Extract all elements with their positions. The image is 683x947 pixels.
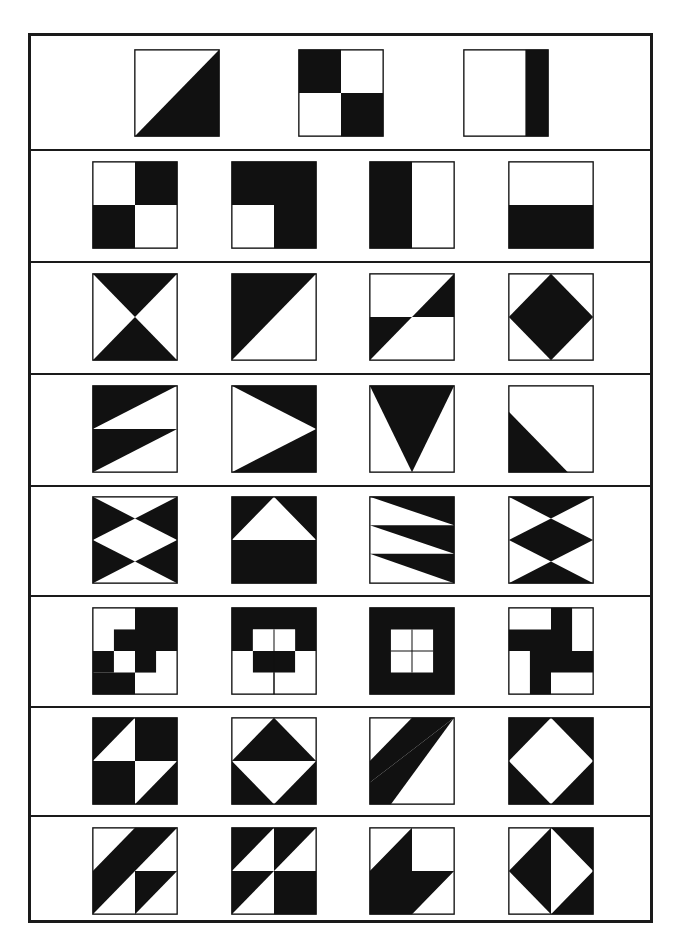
pattern-tile	[231, 607, 317, 695]
pattern-tile	[369, 827, 455, 915]
pattern-tile	[231, 273, 317, 361]
pattern-tile	[134, 49, 220, 137]
pattern-tile	[369, 161, 455, 249]
pattern-tile	[369, 273, 455, 361]
tile-frame	[28, 33, 653, 923]
tile-row	[31, 373, 650, 487]
tile-row	[31, 149, 650, 263]
tile-row	[31, 595, 650, 708]
pattern-tile	[369, 385, 455, 473]
pattern-tile	[231, 496, 317, 584]
pattern-tile	[463, 49, 549, 137]
pattern-tile	[231, 827, 317, 915]
pattern-tile	[508, 496, 594, 584]
pattern-tile	[231, 161, 317, 249]
pattern-tile	[92, 827, 178, 915]
pattern-tile	[508, 385, 594, 473]
pattern-tile	[508, 607, 594, 695]
pattern-tile	[508, 717, 594, 805]
pattern-tile	[231, 385, 317, 473]
pattern-tile	[369, 607, 455, 695]
pattern-tile	[92, 607, 178, 695]
pattern-tile	[92, 717, 178, 805]
pattern-tile	[508, 827, 594, 915]
pattern-tile	[369, 496, 455, 584]
tile-row	[31, 36, 650, 151]
pattern-tile	[298, 49, 384, 137]
tile-row	[31, 815, 650, 926]
pattern-tile	[369, 717, 455, 805]
pattern-tile	[92, 161, 178, 249]
pattern-tile	[508, 161, 594, 249]
pattern-tile	[92, 385, 178, 473]
pattern-tile	[92, 496, 178, 584]
tile-row	[31, 706, 650, 817]
pattern-tile	[508, 273, 594, 361]
tile-row	[31, 485, 650, 597]
pattern-tile	[92, 273, 178, 361]
pattern-tile	[231, 717, 317, 805]
tile-row	[31, 261, 650, 375]
